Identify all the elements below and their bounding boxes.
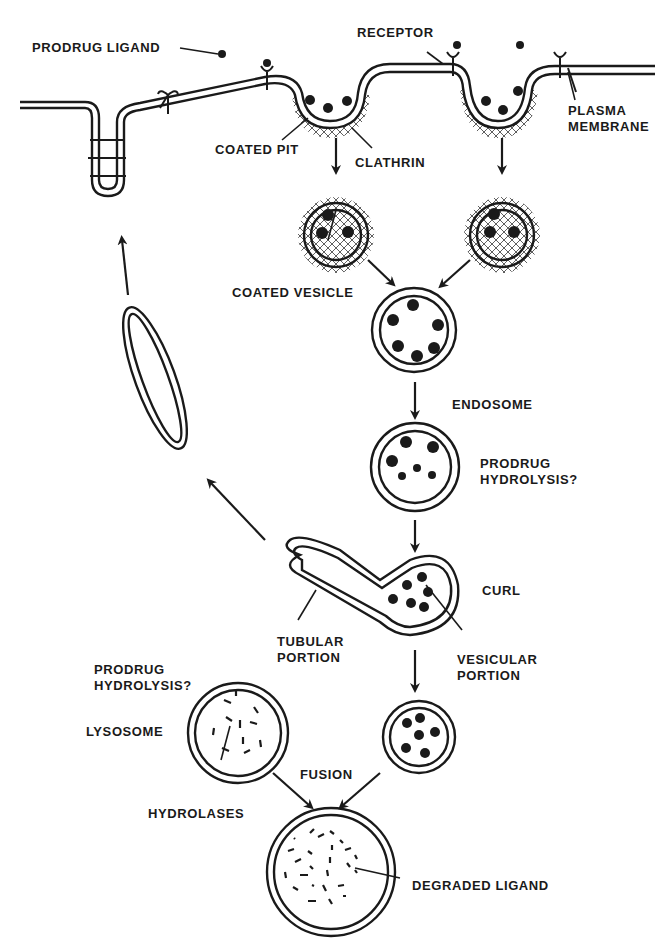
label-plasma-membrane-line1: PLASMA <box>568 103 627 119</box>
coated-vesicle-right <box>464 197 540 273</box>
recycling-vesicle <box>111 301 200 456</box>
endocytosis-diagram <box>0 0 671 942</box>
lysosome <box>188 683 288 783</box>
label-coated-vesicle: COATED VESICLE <box>232 285 354 301</box>
label-degraded-ligand: DEGRADED LIGAND <box>412 878 549 894</box>
label-receptor: RECEPTOR <box>357 25 434 41</box>
label-prodrug-hydrolysis-endosome-line2: HYDROLYSIS? <box>480 472 578 488</box>
ligand-vesicle <box>383 701 455 773</box>
uncoated-vesicle <box>372 288 456 372</box>
coated-vesicle-left <box>298 197 374 273</box>
label-curl: CURL <box>482 583 521 599</box>
arrow-recycling-to-membrane <box>122 240 128 295</box>
label-hydrolases: HYDROLASES <box>148 806 244 822</box>
label-tubular-portion-line1: TUBULAR <box>277 634 344 650</box>
arrow-curl-to-recycling <box>210 482 265 540</box>
label-vesicular-portion-line1: VESICULAR <box>457 652 538 668</box>
label-prodrug-hydrolysis-endosome-line1: PRODRUG <box>480 456 551 472</box>
label-plasma-membrane-line2: MEMBRANE <box>568 119 649 135</box>
endosome <box>371 423 459 511</box>
free-ligands <box>218 41 524 67</box>
bound-ligands <box>305 86 523 115</box>
label-vesicular-portion-line2: PORTION <box>457 668 520 684</box>
arrow-vesicle-left-to-merge <box>368 260 392 283</box>
label-clathrin: CLATHRIN <box>355 155 425 171</box>
label-endosome: ENDOSOME <box>452 397 533 413</box>
label-prodrug-hydrolysis-lysosome-line2: HYDROLYSIS? <box>94 678 192 694</box>
label-fusion: FUSION <box>300 767 353 783</box>
label-tubular-portion-line2: PORTION <box>277 650 340 666</box>
label-lysosome: LYSOSOME <box>86 724 163 740</box>
arrow-vesicle-right-to-merge <box>442 260 470 285</box>
curl-compartment <box>287 538 459 635</box>
label-prodrug-ligand: PRODRUG LIGAND <box>32 40 160 56</box>
label-prodrug-hydrolysis-lysosome-line1: PRODRUG <box>94 662 165 678</box>
label-coated-pit: COATED PIT <box>215 142 299 158</box>
